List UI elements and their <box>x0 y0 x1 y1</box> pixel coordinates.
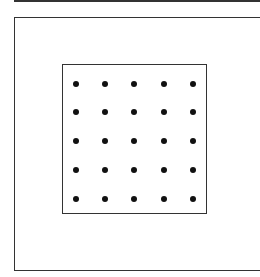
grid-dot <box>102 138 108 144</box>
grid-dot <box>131 138 137 144</box>
grid-dot <box>102 109 108 115</box>
grid-dot <box>190 138 196 144</box>
grid-dot <box>161 196 167 202</box>
grid-dot <box>102 81 108 87</box>
grid-dot <box>102 196 108 202</box>
grid-dot <box>161 167 167 173</box>
grid-dot <box>73 81 79 87</box>
grid-dot <box>161 81 167 87</box>
grid-dot <box>73 167 79 173</box>
grid-dot <box>131 81 137 87</box>
grid-dot <box>73 196 79 202</box>
grid-dot <box>161 138 167 144</box>
grid-dot <box>73 109 79 115</box>
grid-dot <box>190 196 196 202</box>
grid-dot <box>161 109 167 115</box>
grid-dot <box>102 167 108 173</box>
grid-dot <box>131 167 137 173</box>
grid-dot <box>131 196 137 202</box>
top-rule-line <box>14 0 260 2</box>
grid-dot <box>73 138 79 144</box>
grid-dot <box>131 109 137 115</box>
grid-dot <box>190 81 196 87</box>
grid-dot <box>190 109 196 115</box>
grid-dot <box>190 167 196 173</box>
